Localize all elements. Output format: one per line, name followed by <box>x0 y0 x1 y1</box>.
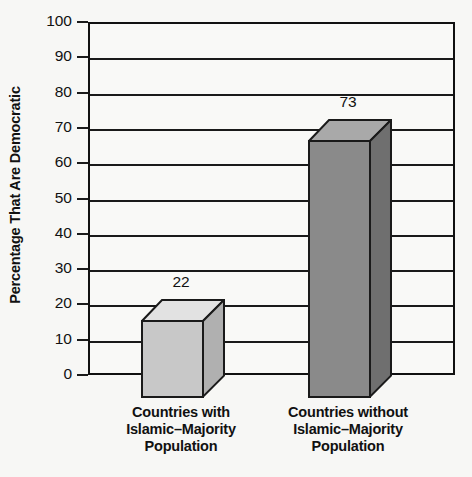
gridline <box>90 94 453 96</box>
category-label-line: Population <box>248 438 448 455</box>
bar-front-face <box>308 140 371 398</box>
plot-area <box>88 22 455 375</box>
y-axis-tick-label: 90 <box>28 47 72 65</box>
y-axis-title: Percentage That Are Democratic <box>0 0 30 390</box>
gridline <box>90 58 453 60</box>
y-axis-tick-label: 60 <box>28 153 72 171</box>
bar-2 <box>308 119 392 398</box>
y-axis-tick <box>77 198 88 200</box>
bar-1 <box>141 299 225 398</box>
y-axis-tick-label: 70 <box>28 118 72 136</box>
y-axis-tick-label: 50 <box>28 189 72 207</box>
category-label-line: Countries without <box>248 404 448 421</box>
bar-value-label: 22 <box>141 273 221 291</box>
y-axis-tick-label: 80 <box>28 83 72 101</box>
gridline <box>90 129 453 131</box>
y-axis-tick <box>77 127 88 129</box>
bar-side-face <box>202 299 225 398</box>
bar-value-label: 73 <box>308 93 388 111</box>
chart-container: Percentage That Are Democratic 100908070… <box>0 0 472 477</box>
category-label: Countries withoutIslamic–MajorityPopulat… <box>248 404 448 455</box>
y-axis-tick-label: 30 <box>28 259 72 277</box>
y-axis-tick-label: 40 <box>28 224 72 242</box>
y-axis-tick-label: 10 <box>28 330 72 348</box>
y-axis-title-text: Percentage That Are Democratic <box>7 86 23 304</box>
y-axis-tick <box>77 374 88 376</box>
gridline <box>90 270 453 272</box>
y-axis-tick-label: 0 <box>28 365 72 383</box>
gridline <box>90 200 453 202</box>
bar-front-face <box>141 320 204 398</box>
y-axis-tick <box>77 92 88 94</box>
y-axis-tick <box>77 268 88 270</box>
y-axis-tick <box>77 162 88 164</box>
y-axis-tick <box>77 56 88 58</box>
gridline <box>90 235 453 237</box>
y-axis-tick <box>77 233 88 235</box>
gridline <box>90 164 453 166</box>
y-axis-tick <box>77 339 88 341</box>
category-label-line: Islamic–Majority <box>248 421 448 438</box>
y-axis-tick-label: 100 <box>28 12 72 30</box>
y-axis-tick <box>77 21 88 23</box>
y-axis-tick-label: 20 <box>28 294 72 312</box>
bar-side-face <box>369 119 392 398</box>
y-axis-tick <box>77 303 88 305</box>
